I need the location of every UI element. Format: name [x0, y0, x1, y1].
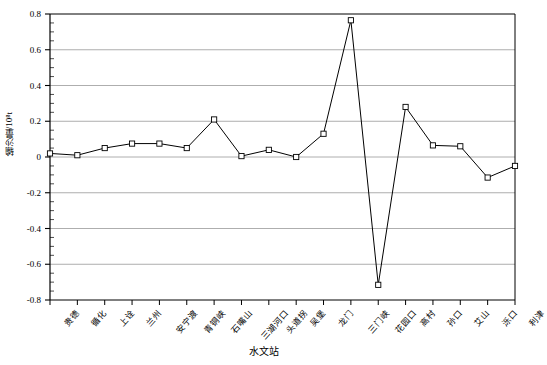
y-tick-label: -0.8 — [11, 295, 41, 305]
data-point-marker — [348, 18, 353, 23]
data-series-line — [50, 20, 515, 285]
data-point-marker — [403, 104, 408, 109]
x-tick-label: 利津 — [526, 307, 547, 328]
data-point-marker — [129, 141, 134, 146]
data-point-marker — [102, 145, 107, 150]
y-tick-label: -0.2 — [11, 188, 41, 198]
y-tick-label: 0.8 — [11, 9, 41, 19]
data-point-marker — [485, 175, 490, 180]
data-point-marker — [157, 141, 162, 146]
data-point-marker — [239, 154, 244, 159]
data-point-marker — [458, 144, 463, 149]
y-tick-label: -0.6 — [11, 259, 41, 269]
data-point-marker — [376, 282, 381, 287]
data-point-marker — [430, 143, 435, 148]
y-tick-label: -0.4 — [11, 224, 41, 234]
data-point-marker — [75, 153, 80, 158]
y-tick-label: 0 — [11, 152, 41, 162]
y-tick-label: 0.6 — [11, 45, 41, 55]
y-tick-label: 0.4 — [11, 81, 41, 91]
data-point-marker — [294, 154, 299, 159]
data-point-marker — [47, 151, 52, 156]
data-point-marker — [512, 163, 517, 168]
data-point-marker — [212, 117, 217, 122]
data-point-marker — [266, 147, 271, 152]
y-tick-label: 0.2 — [11, 116, 41, 126]
data-point-marker — [321, 131, 326, 136]
data-point-marker — [184, 145, 189, 150]
